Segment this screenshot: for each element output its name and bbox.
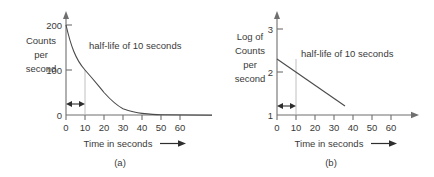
x-tick-label-30-a: 30 bbox=[118, 122, 129, 133]
log-decay-line-b bbox=[277, 59, 345, 106]
halflife-arrow-right-head-b bbox=[290, 103, 296, 109]
x-axis-arrowhead-b bbox=[411, 112, 419, 118]
chart-panel-a: 200 100 0 0 10 20 30 40 50 60 Counts per… bbox=[0, 0, 217, 177]
x-axis-title-a: Time in seconds bbox=[84, 138, 153, 149]
x-tick-label-60-b: 60 bbox=[386, 122, 397, 133]
y-axis-name-line-1-b: Log of bbox=[237, 31, 264, 42]
x-tick-label-50-b: 50 bbox=[367, 122, 378, 133]
x-tick-label-40-a: 40 bbox=[137, 122, 148, 133]
y-tick-label-2-b: 2 bbox=[268, 67, 273, 78]
panel-label-a: (a) bbox=[114, 157, 126, 168]
y-axis-arrowhead-b bbox=[274, 11, 280, 19]
x-tick-label-30-b: 30 bbox=[329, 122, 340, 133]
x-tick-label-0-b: 0 bbox=[274, 122, 279, 133]
y-axis-name-line-2-a: per bbox=[34, 49, 48, 60]
chart-panel-b: 3 2 1 0 10 20 30 40 50 60 Log of Counts … bbox=[217, 0, 434, 177]
x-tick-label-20-a: 20 bbox=[99, 122, 110, 133]
x-tick-label-0-a: 0 bbox=[63, 122, 68, 133]
x-axis-title-arrowhead-b bbox=[389, 140, 397, 146]
chart-svg-a: 200 100 0 0 10 20 30 40 50 60 Counts per… bbox=[0, 0, 217, 177]
x-tick-label-20-b: 20 bbox=[310, 122, 321, 133]
x-tick-label-60-a: 60 bbox=[175, 122, 186, 133]
y-axis-name-line-1-a: Counts bbox=[26, 35, 56, 46]
x-axis-title-arrowhead-a bbox=[178, 140, 186, 146]
y-tick-label-0-a: 0 bbox=[57, 110, 62, 121]
x-axis-title-b: Time in seconds bbox=[295, 138, 364, 149]
x-tick-label-10-a: 10 bbox=[80, 122, 91, 133]
halflife-arrow-left-head-a bbox=[66, 101, 72, 107]
x-tick-label-50-a: 50 bbox=[156, 122, 167, 133]
x-tick-label-10-b: 10 bbox=[291, 122, 302, 133]
x-tick-label-40-b: 40 bbox=[348, 122, 359, 133]
halflife-annotation-b: half-life of 10 seconds bbox=[301, 48, 394, 59]
decay-curve-a bbox=[66, 25, 212, 115]
y-tick-label-1-b: 1 bbox=[268, 110, 273, 121]
y-tick-label-200-a: 200 bbox=[46, 20, 62, 31]
y-axis-name-line-3-b: per bbox=[243, 59, 257, 70]
halflife-arrow-left-head-b bbox=[277, 103, 283, 109]
y-axis-arrowhead-a bbox=[63, 11, 69, 19]
halflife-annotation-a: half-life of 10 seconds bbox=[89, 40, 182, 51]
y-tick-label-3-b: 3 bbox=[268, 24, 273, 35]
panel-label-b: (b) bbox=[325, 157, 337, 168]
halflife-arrow-right-head-a bbox=[79, 101, 85, 107]
figure-container: 200 100 0 0 10 20 30 40 50 60 Counts per… bbox=[0, 0, 434, 177]
y-axis-name-line-4-b: second bbox=[235, 73, 266, 84]
y-axis-name-line-3-a: second bbox=[26, 63, 57, 74]
y-axis-name-line-2-b: Counts bbox=[235, 45, 265, 56]
chart-svg-b: 3 2 1 0 10 20 30 40 50 60 Log of Counts … bbox=[217, 0, 434, 177]
